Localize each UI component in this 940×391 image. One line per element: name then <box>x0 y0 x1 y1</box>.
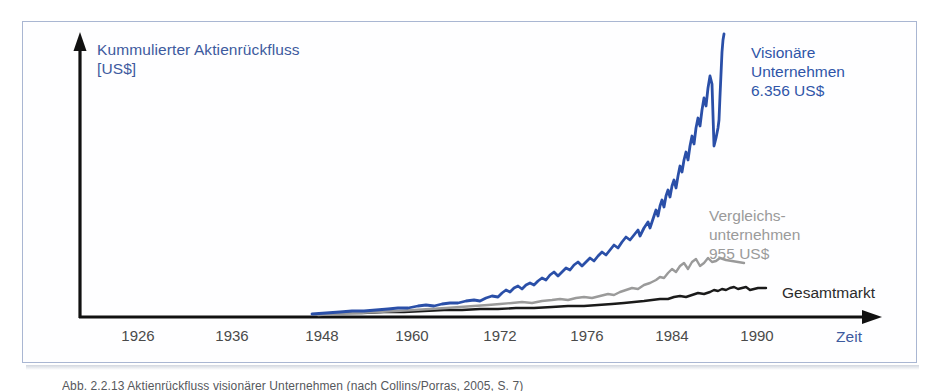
y-axis <box>74 32 87 318</box>
x-tick-label-1936: 1936 <box>202 327 262 344</box>
series-label-gesamtmarkt: Gesamtmarkt <box>782 283 875 302</box>
x-tick-label-1926: 1926 <box>108 327 168 344</box>
series-line-vergleichsunternehmen <box>318 258 744 315</box>
series-line-visionaere-unternehmen <box>312 34 724 314</box>
x-tick-label-1976: 1976 <box>557 327 617 344</box>
y-axis-title: Kummulierter Aktienrückfluss [US$] <box>97 40 300 78</box>
figure-caption: Abb. 2.2.13 Aktienrückfluss visionärer U… <box>62 379 922 391</box>
x-tick-label-1948: 1948 <box>292 327 352 344</box>
x-tick-label-1960: 1960 <box>382 327 442 344</box>
series-label-visionaere-unternehmen: Visionäre Unternehmen 6.356 US$ <box>751 43 845 100</box>
x-tick-label-1972: 1972 <box>470 327 530 344</box>
x-axis <box>79 310 882 324</box>
figure-container: Kummulierter Aktienrückfluss [US$] Zeit … <box>0 0 940 391</box>
series-label-vergleichsunternehmen: Vergleichs- unternehmen 955 US$ <box>709 206 800 263</box>
x-tick-label-1990: 1990 <box>727 327 787 344</box>
x-tick-label-1984: 1984 <box>642 327 702 344</box>
x-axis-title: Zeit <box>836 327 862 346</box>
